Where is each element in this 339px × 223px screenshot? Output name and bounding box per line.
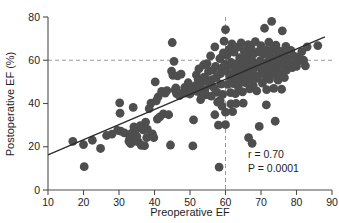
y-tick-label: 60 xyxy=(28,54,40,66)
x-tick-label: 80 xyxy=(291,196,303,208)
y-axis-ticks xyxy=(43,17,48,190)
data-point xyxy=(252,87,261,96)
x-tick-label: 30 xyxy=(113,196,125,208)
p-value-annotation: P = 0.0001 xyxy=(248,162,299,174)
data-point xyxy=(301,61,310,70)
data-point xyxy=(188,141,197,150)
data-point xyxy=(255,122,264,131)
data-point xyxy=(228,107,237,116)
data-point xyxy=(260,24,269,33)
p-value-number: = 0.0001 xyxy=(255,162,299,174)
x-tick-label: 10 xyxy=(42,196,54,208)
data-point xyxy=(215,163,224,172)
data-point xyxy=(189,116,198,125)
data-point xyxy=(170,57,179,66)
correlation-annotation: r = 0.70 xyxy=(248,148,284,160)
y-axis-tick-labels: 020406080 xyxy=(28,11,40,196)
data-point xyxy=(271,117,280,126)
scatter-plot: 020406080 102030405060708090 Preoperativ… xyxy=(0,0,339,223)
x-axis-title: Preoperative EF xyxy=(150,206,230,218)
data-point xyxy=(116,109,125,118)
data-point xyxy=(115,98,124,107)
data-point xyxy=(141,118,150,127)
data-point xyxy=(262,100,271,109)
data-point xyxy=(129,103,138,112)
data-point xyxy=(96,144,105,153)
data-point xyxy=(248,139,257,148)
x-tick-label: 20 xyxy=(78,196,90,208)
data-point xyxy=(278,26,287,35)
data-point xyxy=(269,84,278,93)
x-tick-label: 70 xyxy=(255,196,267,208)
data-point xyxy=(267,17,276,26)
data-point xyxy=(164,110,173,119)
data-point xyxy=(140,141,149,150)
y-axis-title: Postoperative EF (%) xyxy=(4,52,16,157)
data-point xyxy=(149,133,158,142)
data-point xyxy=(166,141,175,150)
data-point xyxy=(239,99,248,108)
x-tick-label: 90 xyxy=(326,196,338,208)
data-point xyxy=(168,38,177,47)
data-point xyxy=(221,120,230,129)
data-point xyxy=(220,37,229,46)
data-point xyxy=(163,86,172,95)
data-point xyxy=(206,52,215,61)
x-axis-ticks xyxy=(48,190,332,195)
data-point xyxy=(80,162,89,171)
data-point xyxy=(210,42,219,51)
y-tick-label: 40 xyxy=(28,97,40,109)
data-point xyxy=(210,110,219,119)
chart-figure: 020406080 102030405060708090 Preoperativ… xyxy=(0,0,339,223)
y-tick-label: 80 xyxy=(28,11,40,23)
y-tick-label: 20 xyxy=(28,140,40,152)
data-point xyxy=(177,70,186,79)
data-point xyxy=(218,102,227,111)
data-point xyxy=(277,85,286,94)
data-point xyxy=(151,77,160,86)
data-points xyxy=(68,17,322,172)
y-tick-label: 0 xyxy=(34,184,40,196)
data-point xyxy=(313,41,322,50)
data-point xyxy=(203,59,212,68)
regression-line xyxy=(48,37,325,155)
data-point xyxy=(221,25,230,34)
